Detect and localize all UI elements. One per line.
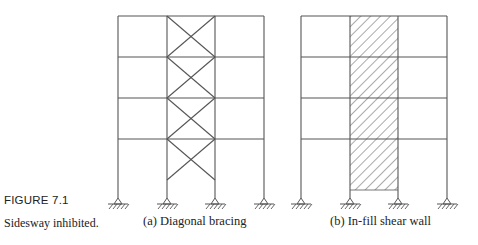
panel-a-caption: (a) Diagonal bracing [143,214,246,229]
figure-number: FIGURE 7.1 [4,194,69,206]
figure-caption: Sidesway inhibited. [4,216,99,231]
panel-b-caption: (b) In-fill shear wall [330,214,431,229]
shear-wall-infill [350,16,398,190]
frames-diagram [0,0,478,245]
frame-a-diagonal-bracing [118,16,264,198]
supports-a [108,198,275,209]
supports-b [291,198,458,209]
